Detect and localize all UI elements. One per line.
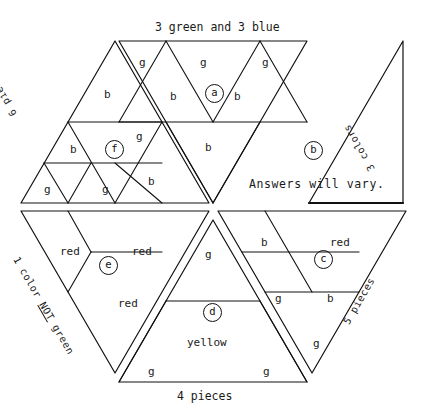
circled-label-c: c [314,250,333,269]
circled-label-d: d [203,303,222,322]
piece-label-b-11: b [148,175,155,188]
piece-label-red-13: red [132,245,152,258]
piece-label-red-14: red [118,297,138,310]
answers-will-vary-note: Answers will vary. [249,177,384,191]
piece-label-g-21: g [275,292,282,305]
piece-label-yellow-16: yellow [187,336,227,349]
circled-label-a: a [205,84,224,103]
piece-label-g-17: g [148,365,155,378]
piece-label-g-6: g [136,130,143,143]
piece-label-b-22: b [327,292,334,305]
piece-label-b-8: b [205,141,212,154]
piece-label-g-10: g [102,183,109,196]
figure-root: 3 green and 3 blue 4 pieces 6 pieces 3 c… [0,0,422,419]
caption-bottom: 4 pieces [177,389,232,403]
piece-label-b-19: b [261,236,268,249]
piece-label-g-15: g [205,248,212,261]
piece-label-red-20: red [330,236,350,249]
piece-label-red-12: red [60,245,80,258]
piece-label-g-9: g [44,183,51,196]
hexagon-diagram [0,0,422,419]
piece-label-g-0: g [139,56,146,69]
circled-label-f: f [105,140,124,159]
circled-label-b: b [304,141,323,160]
piece-label-b-3: b [104,88,111,101]
lower-left-triangle [21,211,209,373]
caption-top: 3 green and 3 blue [155,20,280,34]
piece-label-g-18: g [263,365,270,378]
piece-label-b-4: b [170,90,177,103]
piece-label-g-1: g [200,56,207,69]
circled-label-e: e [99,256,118,275]
piece-label-b-5: b [234,90,241,103]
piece-label-g-23: g [313,337,320,350]
lower-right-triangle [218,211,406,373]
piece-label-g-2: g [262,56,269,69]
piece-label-b-7: b [70,143,77,156]
